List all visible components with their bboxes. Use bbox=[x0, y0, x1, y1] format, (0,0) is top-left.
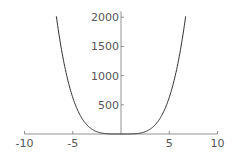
y-tick-label: 2000 bbox=[91, 11, 119, 24]
x-tick-label: -5 bbox=[67, 137, 78, 150]
y-tick-label: 1000 bbox=[91, 70, 119, 83]
axes bbox=[25, 11, 218, 134]
x-tick-label: -10 bbox=[16, 137, 34, 150]
tick-labels: -10-5510500100015002000 bbox=[16, 11, 225, 150]
y-tick-label: 1500 bbox=[91, 40, 119, 53]
x-tick-label: 5 bbox=[166, 137, 173, 150]
x-tick-label: 10 bbox=[211, 137, 225, 150]
plot-area: -10-5510500100015002000 bbox=[0, 0, 234, 153]
y-tick-label: 500 bbox=[98, 99, 119, 112]
